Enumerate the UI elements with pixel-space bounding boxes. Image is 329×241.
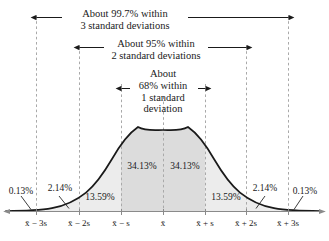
normal-distribution-figure <box>0 0 329 241</box>
annotation-3sd-line2: 3 standard deviations <box>80 20 169 32</box>
annotation-1sd-line2: 68% within <box>139 80 188 92</box>
annotation-3sd-line1: About 99.7% within <box>80 8 169 20</box>
annotation-1sd: About 68% within 1 standard deviation <box>139 68 188 115</box>
percent-right-2to3sd: 2.14% <box>253 183 278 194</box>
percent-left-1to2sd: 13.59% <box>85 192 114 203</box>
axis-label-minus1s: x̄ − s <box>112 218 130 228</box>
axis-label-mean: x̄ <box>161 218 166 228</box>
percent-right-0to1sd: 34.13% <box>170 161 199 172</box>
axis-label-minus3s: x̄ − 3s <box>25 218 47 228</box>
axis-label-plus1s: x̄ + s <box>196 218 214 228</box>
annotation-1sd-line3: 1 standard <box>139 92 188 104</box>
annotation-1sd-line4: deviation <box>139 103 188 115</box>
axis-label-plus3s: x̄ + 3s <box>277 218 299 228</box>
axis-label-plus2s: x̄ + 2s <box>235 218 257 228</box>
percent-left-0to1sd: 34.13% <box>127 161 156 172</box>
percent-right-outer-tail: 0.13% <box>293 186 318 197</box>
annotation-2sd: About 95% within 2 standard deviations <box>111 38 200 62</box>
annotation-3sd: About 99.7% within 3 standard deviations <box>80 8 169 32</box>
axis-label-minus2s: x̄ − 2s <box>68 218 90 228</box>
annotation-2sd-line1: About 95% within <box>111 38 200 50</box>
percent-right-1to2sd: 13.59% <box>211 192 240 203</box>
percent-left-outer-tail: 0.13% <box>9 186 34 197</box>
percent-left-2to3sd: 2.14% <box>48 183 73 194</box>
annotation-2sd-line2: 2 standard deviations <box>111 50 200 62</box>
annotation-1sd-line1: About <box>139 68 188 80</box>
